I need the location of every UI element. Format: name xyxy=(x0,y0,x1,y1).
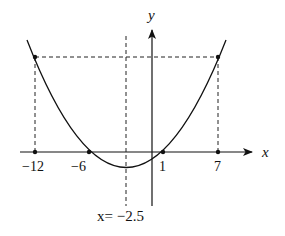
parabola-graph: y x −12 −6 1 7 x= −2.5 xyxy=(0,0,285,236)
point-x-7 xyxy=(216,150,220,154)
point-root-minus6 xyxy=(87,150,91,154)
tick-label-minus6: −6 xyxy=(71,159,86,174)
tick-label-minus12: −12 xyxy=(22,159,44,174)
y-axis-label: y xyxy=(146,7,155,23)
point-right-top xyxy=(216,55,220,59)
point-x-minus12 xyxy=(33,150,37,154)
symmetry-label: x= −2.5 xyxy=(97,208,144,224)
tick-label-1: 1 xyxy=(159,159,166,174)
point-left-top xyxy=(33,55,37,59)
point-root-1 xyxy=(161,150,165,154)
tick-label-7: 7 xyxy=(214,159,221,174)
x-axis-label: x xyxy=(261,144,269,160)
